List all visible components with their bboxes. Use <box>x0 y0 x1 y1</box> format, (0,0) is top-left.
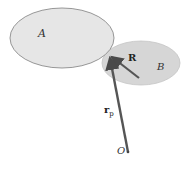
origin-label: O <box>117 145 125 156</box>
region-a-label: A <box>38 27 46 40</box>
vector-rp-subscript: p <box>109 110 113 118</box>
region-a <box>10 8 114 68</box>
diagram-canvas <box>0 0 186 175</box>
vector-rp-label: rp <box>104 104 114 118</box>
vector-r-label: R <box>128 52 136 63</box>
region-b-label: B <box>157 61 164 72</box>
origin-point <box>127 151 130 154</box>
